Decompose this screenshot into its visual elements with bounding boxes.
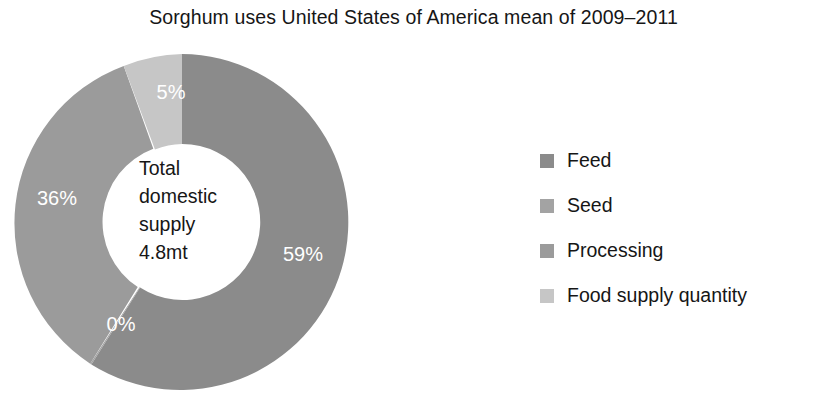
chart-title: Sorghum uses United States of America me… bbox=[0, 6, 827, 29]
legend-swatch-icon bbox=[540, 244, 554, 258]
legend-label: Food supply quantity bbox=[567, 286, 747, 306]
center-label-line-2: domestic bbox=[139, 185, 217, 207]
legend-label: Feed bbox=[567, 151, 611, 171]
legend-swatch-icon bbox=[540, 289, 554, 303]
donut-chart: 59% 0% 36% 5% Total domestic supply 4.8m… bbox=[8, 48, 360, 396]
legend-swatch-icon bbox=[540, 199, 554, 213]
center-label-line-1: Total bbox=[139, 157, 180, 179]
center-label-line-4: 4.8mt bbox=[139, 241, 188, 263]
legend-item-processing[interactable]: Processing bbox=[540, 228, 827, 273]
pie-label-food-supply-quantity: 5% bbox=[157, 81, 186, 103]
legend-item-seed[interactable]: Seed bbox=[540, 183, 827, 228]
legend-item-feed[interactable]: Feed bbox=[540, 138, 827, 183]
pie-label-feed: 59% bbox=[283, 243, 323, 265]
legend-label: Seed bbox=[567, 196, 613, 216]
chart-figure: Sorghum uses United States of America me… bbox=[0, 0, 827, 405]
legend-swatch-icon bbox=[540, 154, 554, 168]
center-label-line-3: supply bbox=[139, 213, 196, 235]
pie-label-processing: 36% bbox=[37, 187, 77, 209]
donut-chart-svg: 59% 0% 36% 5% Total domestic supply 4.8m… bbox=[8, 48, 360, 396]
legend-label: Processing bbox=[567, 241, 663, 261]
chart-legend: Feed Seed Processing Food supply quantit… bbox=[540, 138, 827, 318]
legend-item-food-supply-quantity[interactable]: Food supply quantity bbox=[540, 273, 827, 318]
pie-label-seed: 0% bbox=[107, 313, 136, 335]
